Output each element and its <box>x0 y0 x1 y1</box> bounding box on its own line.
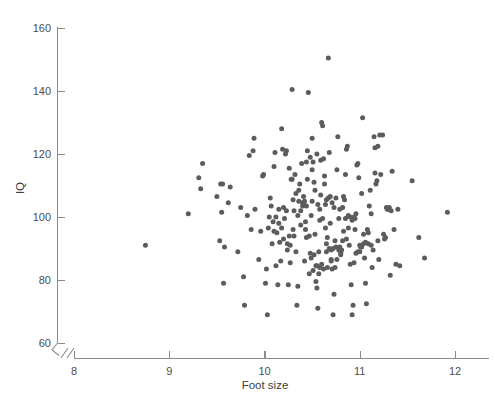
data-point <box>264 266 269 271</box>
data-point <box>316 249 321 254</box>
y-axis-tick-label: 60 <box>39 337 51 349</box>
data-point <box>214 194 219 199</box>
data-point <box>276 207 281 212</box>
data-point <box>323 202 328 207</box>
data-point <box>342 197 347 202</box>
data-point <box>356 175 361 180</box>
data-point <box>269 203 274 208</box>
data-point <box>332 292 337 297</box>
data-point <box>296 199 301 204</box>
data-point <box>198 186 203 191</box>
data-point <box>247 153 252 158</box>
data-point <box>222 244 227 249</box>
x-axis-tick-label: 12 <box>449 365 461 377</box>
data-point <box>305 148 310 153</box>
data-point <box>226 200 231 205</box>
data-point <box>395 207 400 212</box>
data-point <box>445 210 450 215</box>
x-axis: 89101112 Foot size <box>71 351 489 391</box>
data-point <box>383 235 388 240</box>
data-point <box>292 233 297 238</box>
data-point <box>325 235 330 240</box>
data-point <box>287 166 292 171</box>
data-point <box>346 226 351 231</box>
data-point <box>326 55 331 60</box>
data-point <box>341 229 346 234</box>
chart-canvas: 6080100120140160 IQ 89101112 Foot size <box>0 0 495 411</box>
y-axis-tick-label: 100 <box>33 211 51 223</box>
data-point <box>299 161 304 166</box>
data-point <box>317 207 322 212</box>
data-point <box>293 191 298 196</box>
data-point <box>258 229 263 234</box>
data-point <box>367 203 372 208</box>
data-point <box>217 238 222 243</box>
data-point <box>324 241 329 246</box>
data-point <box>309 255 314 260</box>
data-point <box>322 181 327 186</box>
data-point <box>375 144 380 149</box>
data-point <box>272 229 277 234</box>
data-point <box>270 241 275 246</box>
data-point <box>336 248 341 253</box>
data-point <box>284 208 289 213</box>
data-point <box>308 155 313 160</box>
data-point <box>312 232 317 237</box>
data-point <box>378 172 383 177</box>
data-point <box>271 219 276 224</box>
x-axis-tick-label: 9 <box>166 365 172 377</box>
data-point <box>294 303 299 308</box>
data-point <box>256 257 261 262</box>
data-point <box>345 144 350 149</box>
data-point <box>312 188 317 193</box>
data-point <box>362 255 367 260</box>
data-point <box>310 199 315 204</box>
data-point <box>293 249 298 254</box>
data-point <box>245 213 250 218</box>
data-point <box>311 159 316 164</box>
data-point <box>376 257 381 262</box>
data-point <box>263 281 268 286</box>
data-point <box>314 285 319 290</box>
data-point <box>143 243 148 248</box>
x-axis-title: Foot size <box>242 379 289 391</box>
data-point <box>359 191 364 196</box>
data-point <box>320 123 325 128</box>
x-axis-tick-group <box>75 351 456 359</box>
data-point <box>390 169 395 174</box>
data-point <box>261 172 266 177</box>
data-point <box>370 265 375 270</box>
data-point <box>267 215 272 220</box>
data-point <box>388 273 393 278</box>
data-point <box>332 238 337 243</box>
data-point <box>315 306 320 311</box>
y-axis-tick-labels: 6080100120140160 <box>33 22 51 349</box>
x-axis-tick-labels: 89101112 <box>71 365 461 377</box>
data-point <box>371 248 376 253</box>
data-point <box>329 257 334 262</box>
data-point <box>347 243 352 248</box>
data-point <box>350 312 355 317</box>
data-point <box>397 263 402 268</box>
data-point <box>307 233 312 238</box>
data-point <box>292 208 297 213</box>
data-point <box>291 197 296 202</box>
data-point <box>334 167 339 172</box>
data-point <box>273 215 278 220</box>
data-point <box>410 178 415 183</box>
data-point <box>369 211 374 216</box>
data-point <box>321 266 326 271</box>
y-axis-tick-label: 160 <box>33 22 51 34</box>
data-point <box>279 126 284 131</box>
data-point <box>333 196 338 201</box>
data-point <box>363 281 368 286</box>
data-point <box>332 265 337 270</box>
data-point <box>355 161 360 166</box>
data-point <box>284 148 289 153</box>
data-point <box>360 115 365 120</box>
data-point <box>242 303 247 308</box>
data-point <box>272 164 277 169</box>
data-point <box>334 257 339 262</box>
data-point <box>422 255 427 260</box>
data-point <box>220 181 225 186</box>
